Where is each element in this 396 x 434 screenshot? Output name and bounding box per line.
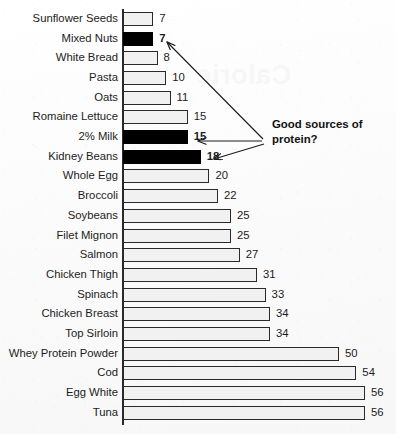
category-label: Whey Protein Powder: [9, 348, 118, 359]
bar-row: Soybeans25: [0, 206, 396, 226]
bar: [123, 110, 188, 124]
bar-row: Cod54: [0, 364, 396, 384]
bar: [123, 71, 166, 85]
category-label: Cod: [97, 368, 118, 379]
bar-row: Broccoli22: [0, 186, 396, 206]
bar: [123, 406, 365, 420]
value-label: 56: [371, 407, 384, 418]
value-label: 8: [164, 53, 170, 64]
bar: [123, 169, 209, 183]
bar: [123, 12, 153, 26]
category-label: Filet Mignon: [56, 230, 118, 241]
bar-row: Sunflower Seeds7: [0, 9, 396, 29]
category-label: Romaine Lettuce: [33, 112, 118, 123]
value-label: 15: [194, 131, 207, 142]
protein-bar-chart: Calorie Sunflower Seeds7Mixed Nuts7White…: [0, 0, 396, 434]
bar-row: White Bread8: [0, 48, 396, 68]
category-label: Mixed Nuts: [61, 33, 118, 44]
category-label: Spinach: [77, 289, 118, 300]
value-label: 31: [263, 269, 276, 280]
bar: [123, 51, 158, 65]
bar-row: Whole Egg20: [0, 167, 396, 187]
value-label: 11: [177, 92, 189, 103]
bar: [123, 327, 270, 341]
bar-row: Filet Mignon25: [0, 226, 396, 246]
bar-row: Salmon27: [0, 245, 396, 265]
bar: [123, 268, 257, 282]
category-label: Oats: [94, 92, 118, 103]
bar-row: Chicken Thigh31: [0, 265, 396, 285]
category-label: Chicken Breast: [41, 309, 118, 320]
value-label: 54: [362, 368, 375, 379]
bar-row: Top Sirloin34: [0, 324, 396, 344]
category-label: Chicken Thigh: [46, 269, 118, 280]
bar-highlighted: [123, 150, 201, 164]
value-label: 33: [272, 289, 285, 300]
value-label: 25: [237, 210, 250, 221]
category-label: Tuna: [93, 407, 118, 418]
plot-area: Sunflower Seeds7Mixed Nuts7White Bread8P…: [0, 0, 396, 434]
category-label: Salmon: [80, 250, 118, 261]
bar: [123, 91, 171, 105]
category-label: Top Sirloin: [65, 328, 118, 339]
bar-row: Pasta10: [0, 68, 396, 88]
bar-highlighted: [123, 130, 188, 144]
bar: [123, 248, 240, 262]
bar-row: Oats11: [0, 88, 396, 108]
value-label: 56: [371, 387, 384, 398]
category-label: Broccoli: [78, 190, 118, 201]
value-label: 18: [207, 151, 220, 162]
bar: [123, 229, 231, 243]
value-label: 7: [159, 33, 165, 44]
value-label: 15: [194, 112, 207, 123]
category-label: Sunflower Seeds: [33, 13, 118, 24]
category-label: 2% Milk: [78, 131, 118, 142]
category-label: Whole Egg: [63, 171, 118, 182]
category-label: White Bread: [56, 53, 118, 64]
bar: [123, 386, 365, 400]
value-label: 34: [276, 309, 289, 320]
value-label: 7: [159, 13, 165, 24]
bar-row: Egg White56: [0, 383, 396, 403]
value-label: 22: [224, 190, 237, 201]
value-label: 50: [345, 348, 358, 359]
value-label: 34: [276, 328, 289, 339]
bar-row: Tuna56: [0, 403, 396, 423]
bar-row: Mixed Nuts7: [0, 29, 396, 49]
bar-row: Whey Protein Powder50: [0, 344, 396, 364]
bar: [123, 288, 266, 302]
category-label: Pasta: [89, 72, 118, 83]
bar-row: Kidney Beans18: [0, 147, 396, 167]
annotation-line-2: protein?: [272, 133, 318, 145]
category-label: Egg White: [66, 387, 118, 398]
bar-row: Chicken Breast34: [0, 305, 396, 325]
bar: [123, 189, 218, 203]
annotation-line-1: Good sources of: [272, 118, 363, 130]
value-label: 20: [215, 171, 228, 182]
value-label: 27: [246, 250, 259, 261]
bar: [123, 366, 356, 380]
category-label: Kidney Beans: [48, 151, 118, 162]
bar-highlighted: [123, 32, 153, 46]
category-label: Soybeans: [68, 210, 118, 221]
bar: [123, 347, 339, 361]
annotation-label: Good sources of protein?: [272, 117, 390, 147]
value-label: 25: [237, 230, 250, 241]
bar-row: Spinach33: [0, 285, 396, 305]
bar: [123, 307, 270, 321]
bar: [123, 209, 231, 223]
value-label: 10: [172, 72, 185, 83]
